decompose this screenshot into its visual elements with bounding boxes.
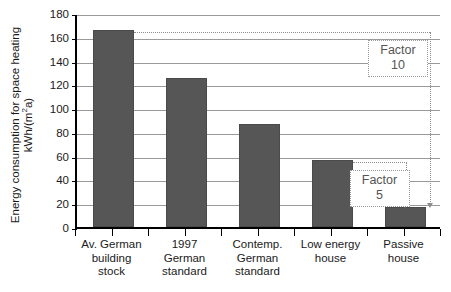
y-axis-unit-exponent: 2 (20, 108, 29, 112)
factor-10-label-word: Factor (374, 43, 422, 58)
x-tick-mark (148, 229, 149, 236)
factor-5-label: Factor5 (350, 170, 410, 207)
y-tick-label: 180 (35, 8, 69, 20)
factor-10-drop-line (430, 32, 431, 204)
factor-10-label-value: 10 (374, 58, 422, 73)
x-tick-mark (331, 229, 332, 236)
y-tick-label: 80 (35, 127, 69, 139)
x-axis-labels: Av. Germanbuildingstock1997Germanstandar… (75, 238, 440, 288)
x-tick-mark (404, 229, 405, 236)
y-tick-label: 20 (35, 198, 69, 210)
factor-10-guide-line (134, 32, 430, 33)
x-tick-mark (112, 229, 113, 236)
factor-5-label-value: 5 (356, 188, 404, 203)
y-tick-label: 100 (35, 103, 69, 115)
bar-chart: Energy consumption for space heating kWh… (0, 0, 451, 292)
bar (93, 30, 134, 227)
y-tick-label: 60 (35, 151, 69, 163)
x-axis-label: Passivehouse (361, 238, 446, 265)
y-axis-unit-suffix: a) (22, 98, 34, 108)
bar (312, 160, 353, 227)
x-tick-mark (221, 229, 222, 236)
y-tick-label: 140 (35, 56, 69, 68)
plot-area: Factor10Factor5 (75, 15, 440, 229)
x-axis-label-line: standard (215, 265, 300, 279)
y-tick-label: 40 (35, 174, 69, 186)
x-tick-mark (440, 229, 441, 236)
x-tick-mark (185, 229, 186, 236)
x-axis-label-line: Passive (361, 238, 446, 252)
bar (385, 207, 426, 227)
bar (239, 124, 280, 227)
x-tick-mark (367, 229, 368, 236)
factor-5-label-word: Factor (356, 173, 404, 188)
factor-10-arrowhead (427, 203, 433, 208)
factor-5-guide-line (353, 162, 406, 163)
y-tick-label: 120 (35, 79, 69, 91)
y-tick-label: 0 (35, 222, 69, 234)
x-axis-label-line: house (361, 252, 446, 266)
x-tick-mark (258, 229, 259, 236)
factor-10-label: Factor10 (368, 40, 428, 77)
x-tick-mark (75, 229, 76, 236)
y-axis-title-line1: Energy consumption for space heating (9, 27, 22, 223)
y-tick-label: 160 (35, 32, 69, 44)
x-tick-mark (294, 229, 295, 236)
y-axis-unit-prefix: kWh/(m (22, 113, 34, 153)
y-axis-title-line2: kWh/(m2a) (22, 98, 35, 152)
bar (166, 78, 207, 227)
